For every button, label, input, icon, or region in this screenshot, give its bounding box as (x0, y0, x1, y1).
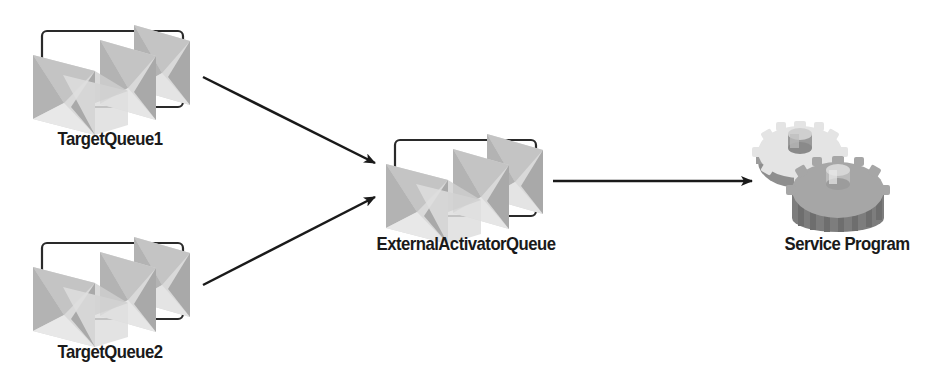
node-label-targetqueue1: TargetQueue1 (58, 128, 163, 150)
message-queue-icon (33, 237, 190, 347)
message-queue-icon (33, 25, 190, 135)
node-label-externalactivatorqueue: ExternalActivatorQueue (377, 233, 556, 255)
edge-targetqueue2-to-external (203, 197, 375, 285)
diagram-canvas (0, 0, 949, 382)
node-label-targetqueue2: TargetQueue2 (58, 341, 163, 363)
message-queue-icon (386, 134, 543, 244)
gears-icon (752, 121, 890, 232)
edge-targetqueue1-to-external (203, 77, 375, 163)
node-label-service-program: Service Program (785, 233, 910, 255)
